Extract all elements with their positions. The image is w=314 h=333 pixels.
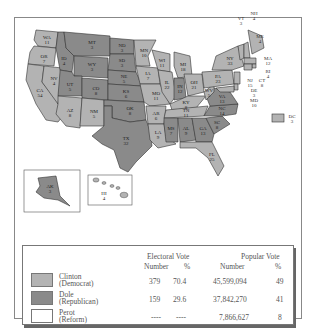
state-hi <box>110 185 114 188</box>
state-electoral-votes: 10 <box>142 53 148 58</box>
dole-ev-number: 159 <box>149 295 160 304</box>
state-nh <box>244 42 250 58</box>
state-electoral-votes: 13 <box>201 131 207 136</box>
candidate-clinton: Clinton(Democrat) <box>59 273 94 287</box>
state-electoral-votes: 11 <box>160 63 165 68</box>
perot-ev-number: ---- <box>151 313 161 322</box>
clinton-ev-pct: 70.4 <box>173 277 186 286</box>
pv-pct-header: % <box>275 262 281 271</box>
state-electoral-votes: 8 <box>261 83 264 88</box>
pv-number-header: Number <box>220 262 245 271</box>
state-electoral-votes: 23 <box>216 79 222 84</box>
electoral-vote-header: Electoral Vote <box>147 252 189 261</box>
state-electoral-votes: 32 <box>124 141 130 146</box>
state-electoral-votes: 21 <box>192 85 198 90</box>
republican-swatch <box>31 291 53 305</box>
results-table: Electoral Vote Popular Vote Number % Num… <box>22 245 294 325</box>
state-electoral-votes: 18 <box>181 67 187 72</box>
state-ri <box>252 64 256 68</box>
state-electoral-votes: 11 <box>184 113 189 118</box>
state-ma <box>244 58 256 64</box>
democrat-swatch <box>31 273 53 287</box>
state-ct <box>244 64 252 70</box>
state-label: 3 <box>291 119 294 124</box>
popular-vote-header: Popular Vote <box>241 252 280 261</box>
state-electoral-votes: 4 <box>253 16 256 21</box>
state-md <box>216 86 234 92</box>
candidate-dole: Dole(Republican) <box>59 291 98 305</box>
perot-pv-pct: 8 <box>278 313 282 322</box>
state-electoral-votes: 13 <box>220 99 226 104</box>
ev-number-header: Number <box>144 262 169 271</box>
state-hi <box>116 187 120 190</box>
state-hi <box>93 178 99 182</box>
dole-pv-pct: 41 <box>276 295 284 304</box>
reform-swatch <box>31 309 53 323</box>
state-de <box>234 84 238 90</box>
clinton-pv-number: 45,599,094 <box>213 277 247 286</box>
state-electoral-votes: 22 <box>165 85 171 90</box>
clinton-ev-number: 379 <box>149 277 160 286</box>
state-electoral-votes: 11 <box>45 40 50 45</box>
dole-pv-number: 37,842,270 <box>213 295 247 304</box>
state-fl <box>180 142 224 176</box>
state-electoral-votes: 25 <box>210 157 216 162</box>
candidate-party: (Reform) <box>59 315 87 324</box>
state-electoral-votes: 54 <box>38 93 44 98</box>
state-hi <box>102 182 106 185</box>
candidate-perot: Perot(Reform) <box>59 309 87 323</box>
state-electoral-votes: 12 <box>266 61 272 66</box>
state-hi <box>120 192 128 198</box>
candidate-party: (Democrat) <box>59 279 94 288</box>
state-electoral-votes: 33 <box>228 61 234 66</box>
clinton-pv-pct: 49 <box>276 277 284 286</box>
state-electoral-votes: 14 <box>220 111 226 116</box>
state-electoral-votes: 10 <box>252 103 258 108</box>
state-dc <box>272 114 284 122</box>
state-electoral-votes: 4 <box>267 74 270 79</box>
state-mt <box>64 32 110 56</box>
perot-pv-number: 7,866,627 <box>219 313 249 322</box>
state-nj <box>234 72 240 84</box>
ev-pct-header: % <box>184 262 190 271</box>
state-electoral-votes: 3 <box>240 21 243 26</box>
state-electoral-votes: 12 <box>178 89 184 94</box>
us-election-map: WA11OR7CA54NV4ID4MT3WY3UT5CO8AZ8NM5ND3SD… <box>0 0 314 245</box>
state-electoral-votes: 11 <box>154 96 159 101</box>
perot-ev-pct: ---- <box>176 313 186 322</box>
candidate-party: (Republican) <box>59 297 98 306</box>
dole-ev-pct: 29.6 <box>173 295 186 304</box>
